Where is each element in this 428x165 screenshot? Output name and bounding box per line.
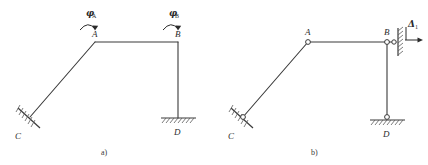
hinge-circle-icon-a [306,40,311,45]
delta-subscript: 1 [415,24,418,30]
support-c-fixed [16,105,40,128]
support-d-pinned [370,115,405,125]
support-hatching-icon [162,118,194,123]
member-c-a [30,42,95,117]
phi-a-subscript: A [92,13,97,19]
hinge-circle-icon-b [385,40,390,45]
support-d-fixed [161,118,196,123]
moment-arrow-a [80,25,98,31]
node-label-d: D [173,127,181,137]
phi-a-label: φ A [86,8,97,19]
displacement-arrow: Δ 1 [405,19,423,43]
panel-a-caption: a) [101,148,108,157]
panel-b-caption: b) [311,148,318,157]
phi-b-subscript: B [175,13,179,19]
phi-b-label: φ B [169,8,179,19]
member-c-a [243,42,308,117]
hinge-circle-icon-wall [392,40,396,44]
node-label-d: D [382,129,390,139]
support-c-pinned [229,105,253,128]
structural-frame-figure: C D A B φ A [0,0,428,165]
arrowhead [418,38,424,43]
support-hatching-icon [371,120,403,125]
node-label-a: A [91,29,98,39]
node-label-c: C [228,131,235,141]
hinge-circle-icon [241,115,246,120]
panel-b: C D A B [228,19,423,157]
node-label-c: C [15,131,22,141]
panel-a: C D A B φ A [15,8,196,157]
node-label-b: B [384,27,390,37]
delta-symbol: Δ [407,19,415,29]
support-b-wall [390,27,404,56]
node-label-a: A [304,27,311,37]
hinge-circle-icon [385,115,390,120]
support-hatching-icon [398,27,403,55]
moment-arrow-b [163,25,181,31]
